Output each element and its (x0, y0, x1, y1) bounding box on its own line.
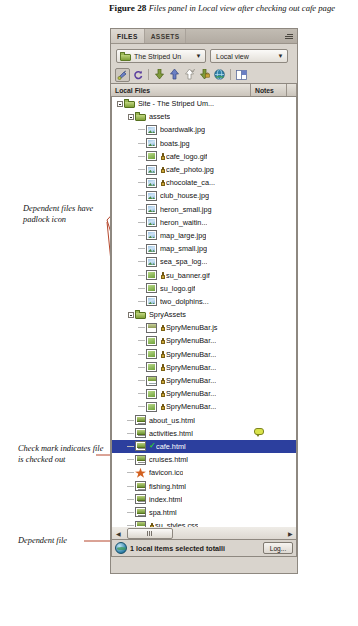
image-icon (146, 217, 157, 227)
log-button[interactable]: Log... (263, 542, 293, 554)
file-row[interactable]: SpryMenuBar.js (112, 321, 296, 334)
panel-tab-bar: FILES ASSETS (111, 29, 297, 44)
file-name: su_logo.gif (160, 284, 195, 293)
tree-guide (137, 123, 146, 136)
view-dropdown[interactable]: Local view ▼ (210, 49, 288, 63)
file-name: map_small.jpg (160, 244, 207, 253)
site-selector-row: The Striped Un ▼ Local view ▼ (111, 44, 297, 66)
file-row[interactable]: about_us.html (112, 414, 296, 427)
tree-guide (126, 479, 135, 492)
file-list[interactable]: Site - The Striped Um...assetsboardwalk.… (111, 97, 297, 527)
file-row[interactable]: heron_small.jpg (112, 203, 296, 216)
column-header-spacer (287, 84, 297, 96)
html-icon (135, 428, 146, 438)
file-row[interactable]: SpryMenuBar... (112, 361, 296, 374)
tree-guide (126, 519, 135, 527)
file-row[interactable]: SpryMenuBar... (112, 400, 296, 413)
gif-icon (146, 270, 157, 280)
file-row[interactable]: index.html (112, 493, 296, 506)
check-in-files-icon[interactable] (197, 68, 212, 82)
file-row[interactable]: two_dolphins... (112, 295, 296, 308)
file-row[interactable]: spa.html (112, 506, 296, 519)
tree-guide (137, 387, 146, 400)
file-row[interactable]: su_logo.gif (112, 282, 296, 295)
file-row[interactable]: SpryMenuBar... (112, 334, 296, 347)
file-row[interactable]: su_banner.gif (112, 268, 296, 281)
file-name: SpryMenuBar... (166, 350, 216, 359)
put-files-icon[interactable] (167, 68, 182, 82)
site-dropdown[interactable]: The Striped Un ▼ (116, 49, 206, 63)
file-row[interactable]: SpryMenuBar... (112, 374, 296, 387)
file-row[interactable]: cruises.html (112, 453, 296, 466)
refresh-icon[interactable] (130, 68, 145, 82)
gif-icon (146, 336, 157, 346)
tree-guide (137, 348, 146, 361)
file-row[interactable]: activities.html (112, 427, 296, 440)
scroll-left-icon[interactable]: ◀ (112, 528, 124, 539)
panel-options-icon[interactable] (281, 29, 297, 43)
column-header-notes[interactable]: Notes (251, 84, 287, 96)
image-icon (146, 204, 157, 214)
file-row[interactable]: cafe_logo.gif (112, 150, 296, 163)
toolbar-separator (230, 69, 231, 80)
collapse-toggle-icon[interactable] (115, 97, 124, 110)
tab-files[interactable]: FILES (111, 29, 145, 43)
file-row[interactable]: chocolate_ca... (112, 176, 296, 189)
tree-guide (126, 414, 135, 427)
connect-to-remote-host-icon[interactable] (115, 68, 130, 82)
synchronize-icon[interactable] (212, 68, 227, 82)
collapse-toggle-icon[interactable] (126, 110, 135, 123)
annotation-dependent-file: Dependent file (18, 535, 108, 546)
file-row[interactable]: favicon.ico (112, 466, 296, 479)
file-row[interactable]: sea_spa_log... (112, 255, 296, 268)
tab-assets[interactable]: ASSETS (145, 29, 187, 43)
file-row[interactable]: fishing.html (112, 479, 296, 492)
scrollbar-thumb[interactable] (127, 528, 173, 539)
file-row[interactable]: SpryMenuBar... (112, 348, 296, 361)
file-row[interactable]: cafe_photo.jpg (112, 163, 296, 176)
get-files-icon[interactable] (152, 68, 167, 82)
tree-guide (137, 163, 146, 176)
file-row[interactable]: map_large.jpg (112, 229, 296, 242)
status-text: 1 local items selected totalli (130, 544, 260, 553)
tree-guide (137, 334, 146, 347)
file-name: SpryMenuBar... (166, 376, 216, 385)
padlock-icon (160, 324, 165, 331)
files-toolbar (111, 66, 297, 83)
image-icon (146, 296, 157, 306)
column-header-local-files[interactable]: Local Files (111, 84, 251, 96)
tree-guide (137, 189, 146, 202)
file-row[interactable]: heron_waitin... (112, 216, 296, 229)
file-name: cafe_photo.jpg (166, 165, 214, 174)
file-name: activities.html (149, 429, 193, 438)
collapse-toggle-icon[interactable] (126, 308, 135, 321)
file-row[interactable]: SpryAssets (112, 308, 296, 321)
file-row[interactable]: boardwalk.jpg (112, 123, 296, 136)
file-row[interactable]: su_styles.css (112, 519, 296, 527)
file-row[interactable]: map_small.jpg (112, 242, 296, 255)
horizontal-scrollbar[interactable]: ◀ ▶ (111, 527, 297, 540)
padlock-icon (160, 403, 165, 410)
file-name: su_styles.css (155, 521, 198, 527)
file-row[interactable]: SpryMenuBar... (112, 387, 296, 400)
file-name: favicon.ico (149, 468, 183, 477)
file-row[interactable]: club_house.jpg (112, 189, 296, 202)
file-name: cafe_logo.gif (166, 152, 207, 161)
file-name: two_dolphins... (160, 297, 209, 306)
file-row[interactable]: ✓cafe.html (112, 440, 296, 453)
file-row[interactable]: assets (112, 110, 296, 123)
tree-guide (137, 176, 146, 189)
tree-guide (137, 321, 146, 334)
check-out-files-icon[interactable] (182, 68, 197, 82)
expand-collapse-icon[interactable] (234, 68, 249, 82)
file-row[interactable]: Site - The Striped Um... (112, 97, 296, 110)
tree-guide (137, 282, 146, 295)
file-name: boats.jpg (160, 139, 190, 148)
file-row[interactable]: boats.jpg (112, 137, 296, 150)
scrollbar-track[interactable] (124, 528, 284, 539)
file-name: SpryMenuBar... (166, 363, 216, 372)
scroll-right-icon[interactable]: ▶ (284, 528, 296, 539)
file-name: cruises.html (149, 455, 188, 464)
folder-icon (120, 52, 131, 61)
file-name: SpryMenuBar... (166, 402, 216, 411)
